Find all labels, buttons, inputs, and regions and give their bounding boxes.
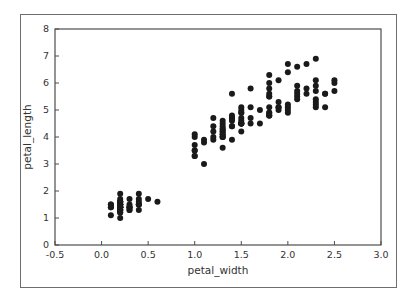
x-tick-label: 3.0 [373, 249, 388, 260]
scatter-plot: -0.50.00.51.01.52.02.53.0012345678 petal… [0, 0, 415, 305]
scatter-point [303, 91, 309, 97]
scatter-point [229, 123, 235, 129]
y-tick-label: 5 [43, 104, 49, 115]
y-tick-label: 1 [43, 212, 49, 223]
x-tick-label: 1.0 [187, 249, 202, 260]
scatter-point [220, 145, 226, 151]
scatter-point [210, 123, 216, 129]
data-points [108, 56, 338, 221]
scatter-point [201, 161, 207, 167]
scatter-point [192, 153, 198, 159]
scatter-point [266, 85, 272, 91]
scatter-point [238, 121, 244, 127]
scatter-point [294, 83, 300, 89]
scatter-point [201, 139, 207, 145]
axes: -0.50.00.51.01.52.02.53.0012345678 [43, 23, 389, 260]
scatter-point [285, 102, 291, 108]
y-tick-label: 6 [43, 77, 49, 88]
scatter-point [294, 91, 300, 97]
scatter-point [136, 202, 142, 208]
y-tick-label: 2 [43, 185, 49, 196]
plot-spines [55, 29, 381, 245]
scatter-point [294, 96, 300, 102]
y-tick-label: 3 [43, 158, 49, 169]
scatter-point [127, 204, 133, 210]
scatter-point [266, 94, 272, 100]
scatter-point [154, 199, 160, 205]
scatter-point [313, 96, 319, 102]
scatter-point [117, 215, 123, 221]
scatter-point [229, 137, 235, 143]
scatter-point [266, 72, 272, 78]
scatter-point [210, 134, 216, 140]
scatter-point [220, 126, 226, 132]
y-tick-label: 0 [43, 239, 49, 250]
y-tick-label: 8 [43, 23, 49, 34]
scatter-point [238, 129, 244, 135]
scatter-point [136, 191, 142, 197]
scatter-point [313, 102, 319, 108]
scatter-point [210, 115, 216, 121]
scatter-point [248, 115, 254, 121]
scatter-point [108, 212, 114, 218]
scatter-point [127, 196, 133, 202]
scatter-point [276, 77, 282, 83]
scatter-point [238, 104, 244, 110]
y-tick-label: 7 [43, 50, 49, 61]
scatter-point [303, 61, 309, 67]
scatter-point [229, 118, 235, 124]
scatter-point [303, 85, 309, 91]
scatter-point [285, 69, 291, 75]
scatter-point [136, 207, 142, 213]
scatter-point [117, 204, 123, 210]
scatter-point [192, 131, 198, 137]
scatter-point [331, 88, 337, 94]
scatter-point [322, 104, 328, 110]
scatter-point [266, 104, 272, 110]
scatter-point [229, 112, 235, 118]
scatter-point [266, 80, 272, 86]
scatter-point [257, 121, 263, 127]
scatter-point [266, 112, 272, 118]
scatter-point [220, 118, 226, 124]
scatter-point [322, 91, 328, 97]
scatter-point [248, 104, 254, 110]
scatter-point [257, 107, 263, 113]
x-tick-label: -0.5 [46, 249, 65, 260]
x-tick-label: 0.0 [94, 249, 109, 260]
scatter-point [248, 85, 254, 91]
x-tick-label: 0.5 [141, 249, 156, 260]
scatter-point [192, 142, 198, 148]
scatter-point [276, 99, 282, 105]
scatter-point [313, 56, 319, 62]
x-axis-label: petal_width [188, 264, 249, 277]
x-tick-label: 1.5 [234, 249, 249, 260]
scatter-point [117, 191, 123, 197]
y-axis-label: petal_length [21, 104, 34, 169]
scatter-point [192, 148, 198, 154]
scatter-point [238, 115, 244, 121]
scatter-point [285, 110, 291, 116]
x-tick-label: 2.0 [280, 249, 295, 260]
scatter-point [285, 61, 291, 67]
scatter-point [313, 88, 319, 94]
scatter-point [248, 121, 254, 127]
y-tick-label: 4 [43, 131, 49, 142]
scatter-point [220, 131, 226, 137]
scatter-point [145, 196, 151, 202]
scatter-point [294, 64, 300, 70]
scatter-point [331, 77, 337, 83]
scatter-point [229, 91, 235, 97]
scatter-point [313, 83, 319, 89]
scatter-point [313, 77, 319, 83]
x-tick-label: 2.5 [327, 249, 342, 260]
scatter-point [210, 129, 216, 135]
scatter-point [108, 204, 114, 210]
scatter-point [276, 107, 282, 113]
